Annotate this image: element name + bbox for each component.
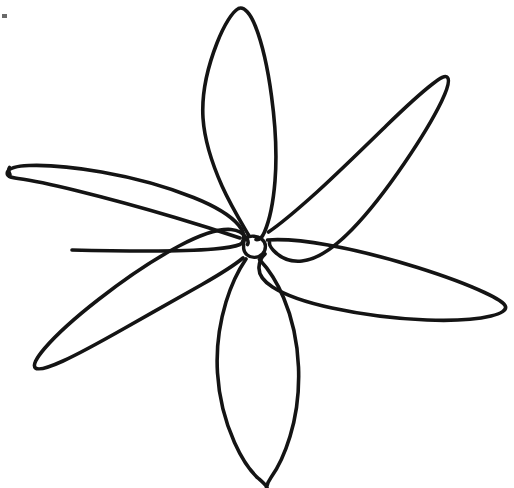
corner-speck-icon (2, 14, 7, 18)
drawing-canvas (0, 0, 514, 488)
paper-background (0, 0, 514, 488)
flower-drawing (0, 0, 514, 488)
artifact-group (2, 14, 7, 18)
